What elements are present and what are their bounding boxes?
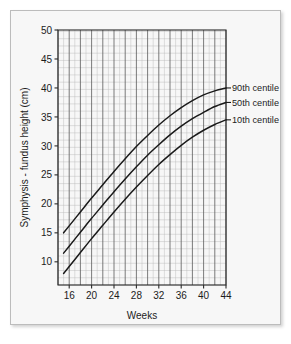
x-tick-label: 24 [108, 290, 120, 301]
centile-curves [64, 88, 226, 273]
x-tick-label: 28 [131, 290, 143, 301]
y-tick-label: 35 [41, 112, 53, 123]
x-tick-label: 20 [86, 290, 98, 301]
x-tick-label: 32 [153, 290, 165, 301]
fundal-height-centile-chart: 101520253035404550 1620242832364044 90th… [11, 11, 280, 324]
x-tick-label: 44 [220, 290, 232, 301]
centile-curve-label: 90th centile [232, 83, 279, 93]
y-tick-label: 30 [41, 141, 53, 152]
y-tick-label: 25 [41, 169, 53, 180]
x-tick-label: 40 [198, 290, 210, 301]
y-tick-label: 45 [41, 54, 53, 65]
centile-curve-label: 10th centile [232, 115, 279, 125]
chart-figure-frame: 101520253035404550 1620242832364044 90th… [10, 10, 281, 325]
y-tick-label: 20 [41, 198, 53, 209]
x-tick-label: 16 [64, 290, 76, 301]
centile-curve [64, 120, 226, 274]
y-tick-label: 40 [41, 83, 53, 94]
grid-minor-lines [58, 30, 226, 285]
y-axis-title: Symphysis - fundus height (cm) [19, 87, 30, 227]
y-tick-label: 10 [41, 256, 53, 267]
centile-curve-label: 50th centile [232, 98, 279, 108]
y-axis-tick-labels: 101520253035404550 [41, 25, 58, 268]
y-tick-label: 50 [41, 25, 53, 36]
centile-curve-labels: 90th centile50th centile10th centile [226, 83, 279, 125]
centile-curve [64, 88, 226, 233]
y-tick-label: 15 [41, 227, 53, 238]
x-axis-title: Weeks [127, 310, 157, 321]
x-axis-tick-labels: 1620242832364044 [64, 285, 232, 301]
x-tick-label: 36 [176, 290, 188, 301]
